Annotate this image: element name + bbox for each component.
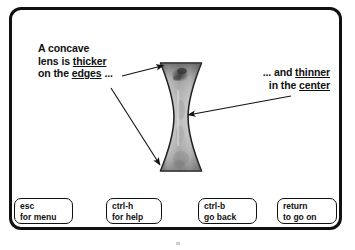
key-button-bar: esc for menu ctrl-h for help ctrl-b go b… [12, 198, 339, 226]
esc-for-menu-button[interactable]: esc for menu [14, 198, 73, 224]
return-to-go-on-button[interactable]: return to go on [277, 198, 337, 224]
annotation-left-line2-underlined: thicker [73, 55, 107, 67]
annotation-left-line3-prefix: on the [38, 67, 72, 79]
return-key-label: return [283, 201, 331, 212]
annotation-left-line1: A concave [38, 42, 89, 54]
concave-lens-illustration [157, 60, 205, 174]
return-action-label: to go on [283, 212, 331, 223]
annotation-left-line3-suffix: ... [102, 67, 113, 79]
esc-action-label: for menu [20, 212, 67, 223]
ctrl-b-action-label: go back [204, 212, 251, 223]
ctrl-h-action-label: for help [112, 212, 156, 223]
annotation-left: A concave lens is thicker on the edges .… [38, 42, 113, 80]
annotation-right-line1-underlined: thinner [295, 66, 330, 78]
annotation-right: ... and thinner in the center [215, 66, 330, 91]
ctrl-h-key-label: ctrl-h [112, 201, 156, 212]
annotation-right-line2-underlined: center [299, 79, 330, 91]
annotation-right-line2-prefix: in the [269, 79, 299, 91]
ctrl-b-go-back-button[interactable]: ctrl-b go back [198, 198, 257, 224]
esc-key-label: esc [20, 201, 67, 212]
ctrl-b-key-label: ctrl-b [204, 201, 251, 212]
annotation-left-line3-underlined: edges [72, 67, 102, 79]
annotation-left-line2-prefix: lens is [38, 55, 73, 67]
lesson-screen: A concave lens is thicker on the edges .… [0, 0, 355, 250]
annotation-right-line1-prefix: ... and [263, 66, 295, 78]
ctrl-h-for-help-button[interactable]: ctrl-h for help [106, 198, 162, 224]
page-artifact [176, 242, 180, 245]
